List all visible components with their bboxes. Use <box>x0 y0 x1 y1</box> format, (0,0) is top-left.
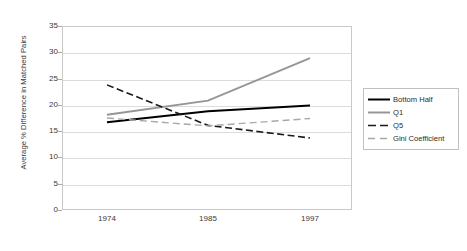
y-axis-tick: 30 <box>34 48 58 56</box>
y-axis-tick: 20 <box>34 101 58 109</box>
legend-item-label: Gini Coefficient <box>393 134 444 143</box>
y-axis-tick: 5 <box>34 180 58 188</box>
legend-item[interactable]: Q5 <box>368 119 455 132</box>
x-axis-tick: 1997 <box>285 214 335 224</box>
legend-swatch-icon <box>368 134 390 143</box>
series-line <box>107 105 310 122</box>
legend-item[interactable]: Q1 <box>368 106 455 119</box>
y-axis-tick: 25 <box>34 75 58 83</box>
legend-swatch-icon <box>368 121 390 130</box>
legend-swatch-icon <box>368 95 390 104</box>
chart-figure: Average % Difference in Matched Pairs 05… <box>0 0 467 251</box>
y-axis-tick: 10 <box>34 153 58 161</box>
legend-item-label: Bottom Half <box>393 95 433 104</box>
y-axis-tick-mark <box>58 210 62 211</box>
legend-item-label: Q5 <box>393 121 403 130</box>
legend-swatch-icon <box>368 108 390 117</box>
y-axis-tick-labels: 05101520253035 <box>32 26 58 210</box>
legend: Bottom Half Q1 Q5 Gini Coefficient <box>363 88 459 150</box>
legend-item[interactable]: Bottom Half <box>368 93 455 106</box>
x-axis-tick: 1985 <box>183 214 233 224</box>
y-axis-title: Average % Difference in Matched Pairs <box>16 0 32 228</box>
x-axis-tick-labels: 197419851997 <box>62 214 352 228</box>
y-axis-tick: 35 <box>34 22 58 30</box>
y-axis-tick: 0 <box>34 206 58 214</box>
legend-item[interactable]: Gini Coefficient <box>368 132 455 145</box>
series-layer <box>62 26 352 210</box>
legend-item-label: Q1 <box>393 108 403 117</box>
y-axis-tick: 15 <box>34 127 58 135</box>
x-axis-tick: 1974 <box>82 214 132 224</box>
